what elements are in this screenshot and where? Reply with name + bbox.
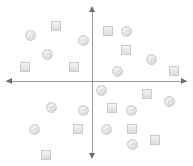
circle-marker-icon <box>101 124 112 135</box>
circle-marker-icon <box>78 105 89 116</box>
circle-marker-icon <box>25 30 36 41</box>
square-marker-icon <box>20 62 30 72</box>
square-marker-icon <box>127 124 137 134</box>
circle-marker-icon <box>164 96 175 107</box>
square-marker-icon <box>51 21 61 31</box>
circle-marker-icon <box>126 105 137 116</box>
circle-marker-icon <box>29 124 40 135</box>
circle-marker-icon <box>96 85 107 96</box>
circle-marker-icon <box>78 35 89 46</box>
arrow-left-icon <box>6 78 12 84</box>
square-marker-icon <box>69 62 79 72</box>
square-marker-icon <box>150 135 160 145</box>
circle-marker-icon <box>112 66 123 77</box>
square-marker-icon <box>121 45 131 55</box>
horizontal-axis <box>6 81 187 82</box>
square-marker-icon <box>73 124 83 134</box>
arrow-right-icon <box>181 78 187 84</box>
arrow-down-icon <box>89 153 95 159</box>
arrow-up-icon <box>89 6 95 12</box>
quadrant-diagram <box>0 0 193 166</box>
square-marker-icon <box>142 89 152 99</box>
square-marker-icon <box>41 150 51 160</box>
square-marker-icon <box>107 103 117 113</box>
circle-marker-icon <box>121 26 132 37</box>
square-marker-icon <box>169 66 179 76</box>
circle-marker-icon <box>46 102 57 113</box>
vertical-axis <box>92 10 93 157</box>
square-marker-icon <box>103 26 113 36</box>
circle-marker-icon <box>146 54 157 65</box>
circle-marker-icon <box>42 49 53 60</box>
circle-marker-icon <box>127 139 138 150</box>
